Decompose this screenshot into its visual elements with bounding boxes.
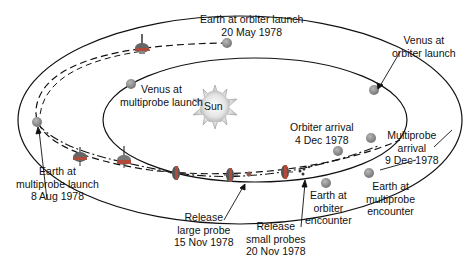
label-line: Venus at bbox=[120, 83, 203, 96]
label-line: Multiprobe bbox=[385, 129, 439, 142]
venus-orbit bbox=[103, 58, 407, 182]
label-line: orbiter launch bbox=[392, 47, 456, 60]
spacecraft-multiprobe-launch-icon bbox=[73, 147, 87, 166]
label-line: multiprobe launch bbox=[16, 178, 99, 191]
label-line: multiprobe bbox=[366, 193, 415, 206]
label-line: Release bbox=[246, 220, 306, 233]
label-orbiter-arrival: Orbiter arrival 4 Dec 1978 bbox=[290, 121, 354, 146]
earth-at-multiprobe-launch-marker bbox=[32, 117, 42, 127]
sun-label: Sun bbox=[204, 100, 223, 112]
label-multiprobe-arrival: Multiprobe arrival 9 Dec 1978 bbox=[385, 129, 439, 167]
label-line: encounter bbox=[366, 205, 415, 218]
label-earth-orbiter-launch: Earth at orbiter launch 20 May 1978 bbox=[200, 13, 303, 38]
spacecraft-multiprobe-side-1-icon bbox=[170, 166, 184, 180]
label-line: large probe bbox=[174, 224, 234, 237]
label-line: Earth at bbox=[366, 180, 415, 193]
label-line: 20 Nov 1978 bbox=[246, 245, 306, 258]
label-release-large-probe: Release large probe 15 Nov 1978 bbox=[174, 211, 234, 249]
spacecraft-orbiter-launch-icon bbox=[135, 34, 149, 54]
label-line: Venus at bbox=[392, 34, 456, 47]
label-line: 20 May 1978 bbox=[200, 26, 303, 39]
label-line: encounter bbox=[305, 214, 352, 227]
earth-at-multiprobe-encounter-marker bbox=[364, 168, 374, 178]
orbiter-arrival-marker bbox=[333, 146, 343, 156]
earth-at-orbiter-launch-marker bbox=[222, 38, 232, 48]
earth-at-orbiter-encounter-marker bbox=[321, 178, 331, 188]
spacecraft-multiprobe-side-2-icon bbox=[224, 168, 238, 182]
label-line: arrival bbox=[385, 142, 439, 155]
label-earth-multiprobe-encounter: Earth at multiprobe encounter bbox=[366, 180, 415, 218]
large-probe-icon bbox=[247, 172, 252, 177]
multiprobe-arrival-marker bbox=[366, 133, 376, 143]
label-line: 9 Dec 1978 bbox=[385, 154, 439, 167]
label-line: Earth at orbiter launch bbox=[200, 13, 303, 26]
label-venus-multiprobe-launch: Venus at multiprobe launch bbox=[120, 83, 203, 108]
label-line: orbiter bbox=[305, 202, 352, 215]
label-line: 15 Nov 1978 bbox=[174, 236, 234, 249]
spacecraft-multiprobe-side-3-icon bbox=[281, 165, 293, 179]
label-line: Earth at bbox=[305, 189, 352, 202]
label-line: 8 Aug 1978 bbox=[16, 190, 99, 203]
label-line: Release bbox=[174, 211, 234, 224]
label-line: 4 Dec 1978 bbox=[290, 134, 354, 147]
label-line: multiprobe launch bbox=[120, 96, 203, 109]
label-line: Earth at bbox=[16, 165, 99, 178]
label-earth-orbiter-encounter: Earth at orbiter encounter bbox=[305, 189, 352, 227]
label-venus-orbiter-launch: Venus at orbiter launch bbox=[392, 34, 456, 59]
label-release-small-probes: Release small probes 20 Nov 1978 bbox=[246, 220, 306, 258]
label-line: Orbiter arrival bbox=[290, 121, 354, 134]
label-earth-multiprobe-launch: Earth at multiprobe launch 8 Aug 1978 bbox=[16, 165, 99, 203]
label-line: small probes bbox=[246, 233, 306, 246]
